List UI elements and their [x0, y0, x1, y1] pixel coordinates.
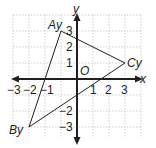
x-axis-left-arrow-icon — [11, 76, 19, 83]
x-tick-label: 1 — [90, 83, 97, 97]
vertex-c-label: Cy — [127, 56, 143, 70]
origin-label: O — [80, 64, 89, 78]
x-axis-label: x — [139, 72, 147, 86]
vertex-b-label: By — [9, 123, 24, 137]
coordinate-plane: x y O −3 −2 −1 1 2 3 3 2 1 −2 −3 Ay By C… — [0, 0, 156, 148]
y-tick-label: 2 — [66, 40, 73, 54]
x-tick-label: −2 — [23, 83, 37, 97]
y-axis-label: y — [72, 2, 80, 16]
x-tick-label: −3 — [7, 83, 21, 97]
y-axis-down-arrow-icon — [74, 137, 81, 145]
y-tick-label: 1 — [66, 56, 73, 70]
x-tick-label: 3 — [121, 83, 128, 97]
vertex-a-label: Ay — [47, 18, 63, 32]
y-tick-label: 3 — [66, 24, 73, 38]
y-tick-label: −2 — [59, 104, 73, 118]
y-tick-label: −3 — [59, 120, 73, 134]
x-tick-label: 2 — [105, 83, 112, 97]
x-tick-label: −1 — [40, 83, 54, 97]
